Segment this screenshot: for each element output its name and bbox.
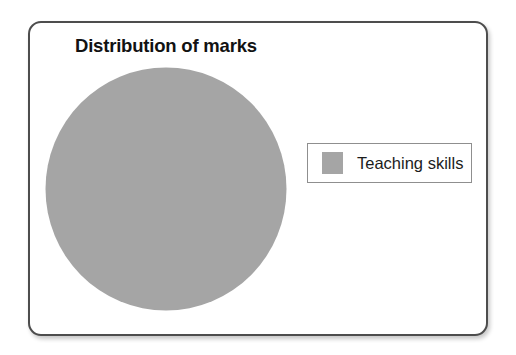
plot-area: Teaching skills bbox=[30, 23, 486, 334]
chart-legend: Teaching skills bbox=[307, 143, 472, 183]
figure-root: Distribution of marks Teaching skills bbox=[0, 0, 516, 355]
chart-card: Distribution of marks Teaching skills bbox=[28, 21, 488, 336]
legend-swatch-icon bbox=[322, 152, 343, 174]
pie-chart bbox=[45, 67, 287, 311]
pie-slice-teaching-skills bbox=[45, 67, 287, 311]
legend-item-label: Teaching skills bbox=[357, 154, 463, 172]
legend-item-teaching-skills[interactable]: Teaching skills bbox=[322, 152, 463, 174]
